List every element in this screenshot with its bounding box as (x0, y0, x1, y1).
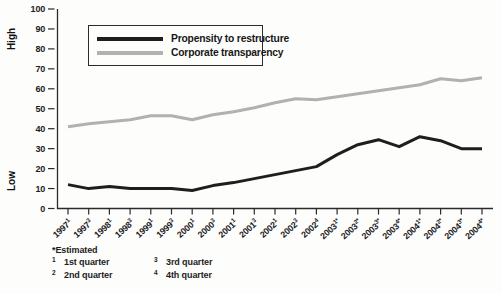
y-tick-label: 100 (31, 4, 46, 14)
x-tick-label: 19981 (91, 216, 116, 240)
x-tick-label: 20042* (421, 216, 447, 241)
y-tick-label: 50 (35, 104, 45, 114)
legend-label-transparency: Corporate transparency (171, 47, 283, 58)
legend-label-propensity: Propensity to restructure (171, 33, 289, 44)
x-tick-label: 19983 (112, 216, 137, 240)
legend-line-swatch-transparency (97, 51, 163, 55)
footnote-q4: 4 4th quarter (154, 270, 212, 283)
x-tick-label: 20003 (195, 216, 220, 240)
series-line-propensity-to-restructure (68, 137, 482, 191)
y-tick-label: 0 (40, 204, 45, 214)
x-tick-label: 20032* (338, 216, 364, 241)
x-tick-label: 19973 (70, 216, 95, 240)
x-tick-label: 20044* (462, 216, 488, 241)
y-tick-label: 80 (35, 44, 45, 54)
footnote-q2: 2 2nd quarter (52, 270, 152, 283)
y-tick-label: 60 (35, 84, 45, 94)
legend: Propensity to restructure Corporate tran… (88, 25, 263, 66)
y-axis-high-label: High (6, 28, 17, 50)
x-tick-label: 19971 (50, 216, 75, 240)
y-tick-label: 40 (35, 124, 45, 134)
legend-line-swatch-propensity (97, 37, 163, 41)
footnote-q4-symbol: 4 (154, 269, 166, 276)
footnote-q1: 1 1st quarter (52, 257, 152, 270)
x-tick-label: 20023 (277, 216, 302, 240)
x-tick-label: 20013 (236, 216, 261, 240)
x-tick-label: 19991 (133, 216, 158, 240)
x-tick-label: 20001 (174, 216, 199, 240)
footnote-q4-label: 4th quarter (166, 270, 212, 280)
x-tick-label: 20043* (441, 216, 467, 241)
x-tick-label: 20033* (359, 216, 385, 241)
footnote-q2-symbol: 2 (52, 269, 64, 276)
y-tick-label: 90 (35, 24, 45, 34)
footnote-estimated: *Estimated (52, 245, 212, 255)
footnotes: *Estimated 1 1st quarter 2 2nd quarter 3… (52, 245, 212, 283)
y-tick-label: 20 (35, 164, 45, 174)
x-tick-label: 19993 (153, 216, 178, 240)
x-tick-label: 20011 (215, 216, 240, 240)
y-axis-low-label: Low (6, 171, 17, 191)
footnote-q1-label: 1st quarter (64, 257, 109, 267)
legend-item-propensity: Propensity to restructure (97, 33, 256, 44)
footnote-q3-label: 3rd quarter (166, 257, 212, 267)
series-line-corporate-transparency (68, 78, 482, 127)
x-tick-label: 20021 (257, 216, 282, 240)
y-tick-label: 10 (35, 184, 45, 194)
y-tick-label: 30 (35, 144, 45, 154)
y-tick-label: 70 (35, 64, 45, 74)
footnote-quarter-key: 1 1st quarter 2 2nd quarter 3 3rd quarte… (52, 257, 212, 283)
footnote-q1-symbol: 1 (52, 256, 64, 263)
x-tick-label: 20031* (317, 216, 343, 241)
legend-item-transparency: Corporate transparency (97, 47, 256, 58)
x-tick-label: 20041* (400, 216, 426, 241)
x-tick-label: 20034* (379, 216, 405, 241)
footnote-q2-label: 2nd quarter (64, 270, 112, 280)
footnote-q3-symbol: 3 (154, 256, 166, 263)
chart-figure: 0102030405060708090100HighLow19971199731… (0, 0, 502, 294)
